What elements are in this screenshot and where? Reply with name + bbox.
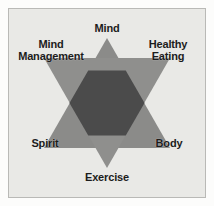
vertex-label-exercise: Exercise — [0, 172, 214, 184]
vertex-label-mind: Mind — [0, 23, 214, 35]
vertex-label-body: Body — [138, 138, 200, 150]
vertex-label-healthy-eating: Healthy Eating — [132, 39, 204, 62]
figure-root: Mind Healthy Eating Mind Management Spir… — [0, 0, 214, 206]
vertex-label-spirit: Spirit — [14, 138, 76, 150]
vertex-label-mind-management: Mind Management — [10, 39, 92, 62]
